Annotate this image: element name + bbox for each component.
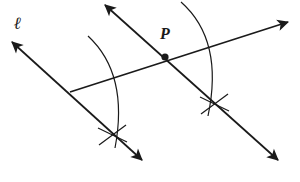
transversal-line — [105, 5, 278, 160]
parallel-line-through-p — [70, 22, 288, 92]
line-l — [12, 42, 142, 160]
point-p-label: P — [160, 26, 170, 42]
tick-mark-right — [200, 94, 229, 114]
construction-canvas — [0, 0, 300, 182]
point-p-dot — [161, 53, 168, 60]
geometry-figure: ℓ P — [0, 0, 300, 182]
line-l-label: ℓ — [14, 15, 21, 32]
arc-at-point-p — [181, 2, 212, 116]
